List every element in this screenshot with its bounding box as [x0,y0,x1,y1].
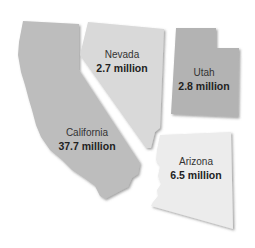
arizona-population: 6.5 million [170,169,221,181]
state-utah: Utah 2.8 million [171,28,239,117]
utah-name: Utah [193,67,214,78]
arizona-name: Arizona [179,156,213,167]
california-name: California [66,127,109,138]
nevada-name: Nevada [105,49,140,60]
population-map: California 37.7 million Nevada 2.7 milli… [0,0,255,248]
utah-population: 2.8 million [178,80,229,92]
nevada-population: 2.7 million [96,62,147,74]
state-arizona: Arizona 6.5 million [151,132,233,229]
california-population: 37.7 million [58,140,115,152]
